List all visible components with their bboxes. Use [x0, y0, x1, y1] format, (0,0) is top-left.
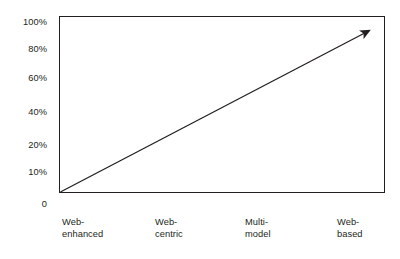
- y-tick-label-100: 100%: [0, 17, 56, 27]
- x-tick-label-line2: centric: [155, 228, 183, 240]
- chart-figure: 100% 80% 60% 40% 20% 10% 0 Web- enhanced…: [0, 0, 400, 259]
- x-tick-label-multi-model: Multi- model: [245, 216, 271, 240]
- y-tick-label-10: 10%: [0, 167, 56, 177]
- x-tick-label-web-centric: Web- centric: [155, 216, 183, 240]
- y-tick-label-80: 80%: [0, 44, 56, 54]
- x-tick-label-web-based: Web- based: [337, 216, 363, 240]
- x-tick-label-line1: Web-: [62, 217, 84, 227]
- x-tick-label-line1: Web-: [155, 217, 177, 227]
- y-tick-label-40: 40%: [0, 107, 56, 117]
- x-tick-label-web-enhanced: Web- enhanced: [62, 216, 103, 240]
- x-tick-label-line2: enhanced: [62, 228, 103, 240]
- x-axis-labels: Web- enhanced Web- centric Multi- model …: [0, 216, 400, 256]
- y-tick-label-20: 20%: [0, 140, 56, 150]
- x-tick-label-line2: based: [337, 228, 363, 240]
- y-tick-label-0: 0: [0, 199, 56, 209]
- x-tick-label-line1: Web-: [337, 217, 359, 227]
- x-tick-label-line2: model: [245, 228, 271, 240]
- plot-area: [59, 16, 385, 193]
- y-tick-label-60: 60%: [0, 73, 56, 83]
- x-tick-label-line1: Multi-: [245, 217, 268, 227]
